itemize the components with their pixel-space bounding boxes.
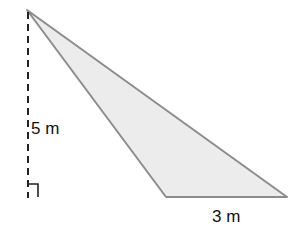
- height-label: 5 m: [31, 119, 59, 138]
- base-label: 3 m: [212, 207, 240, 226]
- right-angle-marker: [29, 184, 38, 197]
- obtuse-triangle: [27, 10, 287, 197]
- triangle-diagram: 5 m 3 m: [0, 0, 308, 234]
